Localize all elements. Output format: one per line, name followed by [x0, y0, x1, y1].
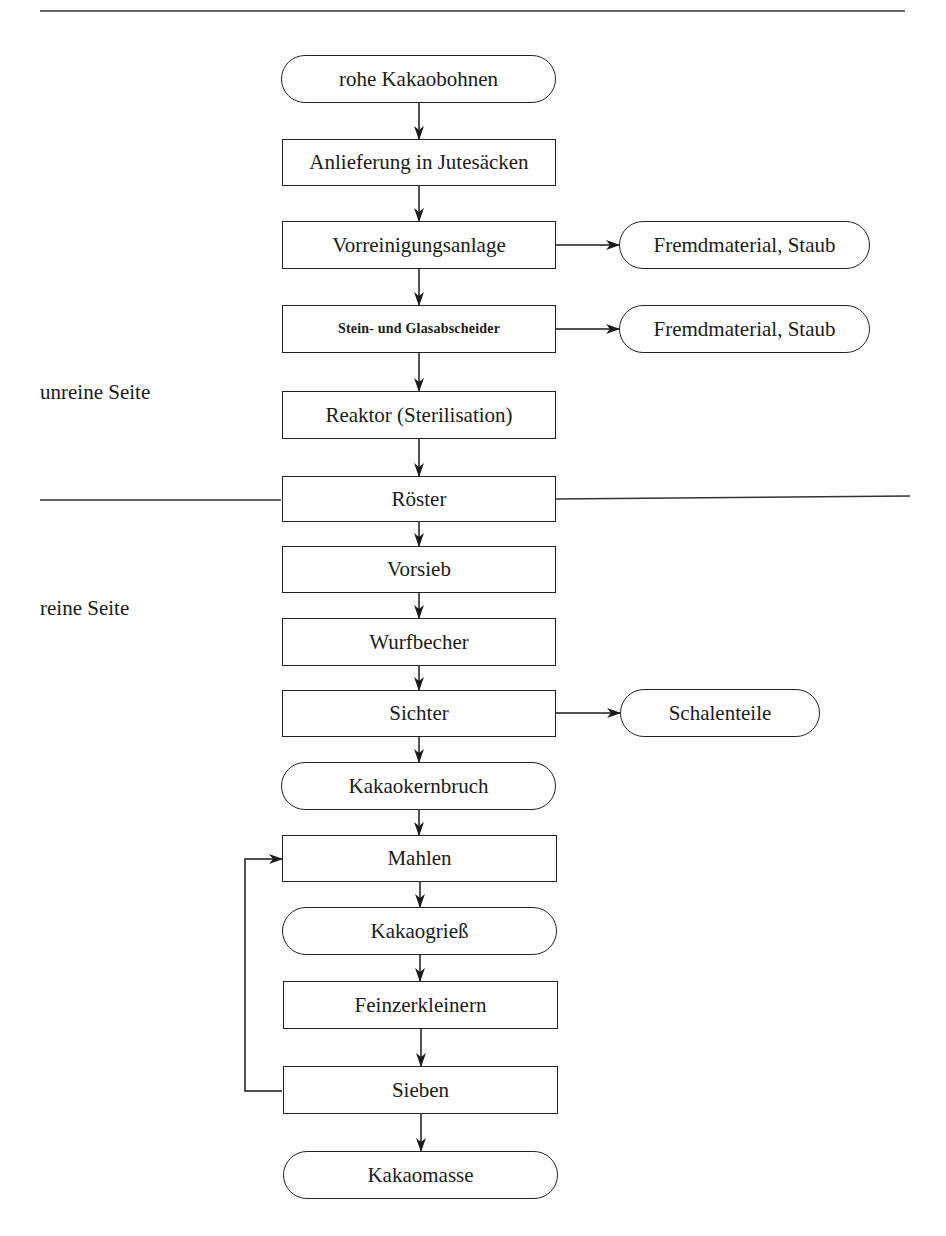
node-wurfbecher: Wurfbecher [282, 618, 556, 666]
node-anlieferung: Anlieferung in Jutesäcken [282, 139, 556, 186]
node-fremdmaterial-staub-2: Fremdmaterial, Staub [619, 305, 870, 353]
feedback-loop [245, 859, 282, 1091]
node-vorsieb: Vorsieb [282, 546, 556, 593]
node-reaktor: Reaktor (Sterilisation) [282, 391, 556, 439]
node-sichter: Sichter [282, 690, 556, 737]
node-roester: Röster [282, 476, 556, 522]
node-fremdmaterial-staub-1: Fremdmaterial, Staub [619, 221, 870, 269]
node-kakaogriess: Kakaogrieß [282, 907, 557, 955]
node-mahlen: Mahlen [282, 835, 557, 882]
zone-divider-right [556, 496, 910, 499]
zone-label-reine-seite: reine Seite [40, 596, 129, 621]
node-schalenteile: Schalenteile [620, 689, 820, 737]
node-stein-glasabscheider: Stein- und Glasabscheider [282, 305, 556, 353]
node-feinzerkleinern: Feinzerkleinern [283, 981, 558, 1029]
node-kakaomasse: Kakaomasse [283, 1151, 558, 1199]
zone-label-unreine-seite: unreine Seite [40, 380, 150, 405]
node-vorreinigungsanlage: Vorreinigungsanlage [282, 221, 556, 269]
node-sieben: Sieben [283, 1066, 558, 1114]
node-rohe-kakaobohnen: rohe Kakaobohnen [281, 55, 556, 103]
node-kakaokernbruch: Kakaokernbruch [281, 762, 556, 810]
flowchart-canvas: unreine Seite reine Seite rohe Kakaobohn… [0, 0, 946, 1236]
